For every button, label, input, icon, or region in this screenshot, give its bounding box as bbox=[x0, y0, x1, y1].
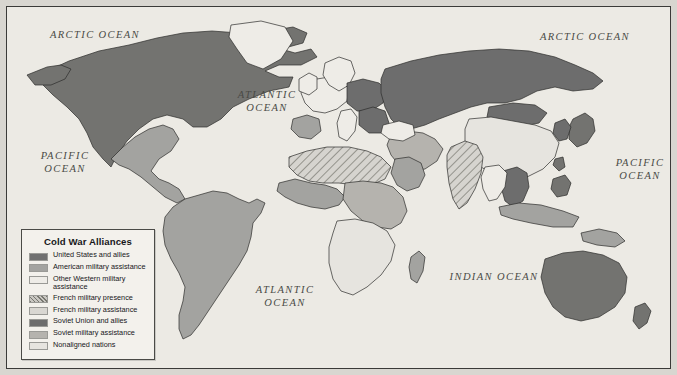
region-south-america bbox=[163, 191, 265, 339]
legend-item: Nonaligned nations bbox=[28, 341, 148, 351]
region-africa-north-hatched bbox=[289, 147, 391, 185]
region-italy bbox=[337, 109, 357, 141]
region-new-guinea bbox=[581, 229, 625, 247]
legend-label: Other Western military assistance bbox=[53, 275, 148, 292]
legend-label: American military assistance bbox=[53, 263, 145, 271]
legend-swatch-1 bbox=[29, 264, 48, 272]
legend-rows: United States and alliesAmerican militar… bbox=[28, 251, 148, 350]
region-africa-west bbox=[277, 179, 345, 209]
legend-swatch-6 bbox=[29, 331, 48, 339]
legend-label: French military presence bbox=[53, 294, 133, 302]
region-taiwan bbox=[553, 157, 565, 171]
region-india-hatched bbox=[447, 141, 483, 209]
legend-label: Soviet military assistance bbox=[53, 329, 135, 337]
legend-swatch-5 bbox=[29, 319, 48, 327]
legend-item: Soviet military assistance bbox=[28, 329, 148, 339]
legend-item: Soviet Union and allies bbox=[28, 317, 148, 327]
legend-label: Nonaligned nations bbox=[53, 341, 115, 349]
region-africa-south bbox=[329, 219, 395, 295]
legend-swatch-2 bbox=[29, 276, 48, 284]
region-arabia bbox=[391, 157, 425, 191]
region-iberia bbox=[291, 115, 321, 139]
legend-swatch-7 bbox=[29, 342, 48, 350]
region-madagascar bbox=[409, 251, 425, 283]
legend-item: French military assistance bbox=[28, 306, 148, 316]
region-australia bbox=[541, 251, 627, 321]
map-frame: ARCTIC OCEANARCTIC OCEANATLANTIC OCEANPA… bbox=[6, 6, 671, 369]
legend-item: French military presence bbox=[28, 294, 148, 304]
map-legend: Cold War Alliances United States and all… bbox=[21, 229, 155, 360]
region-malay-indonesia bbox=[499, 203, 579, 227]
legend-label: United States and allies bbox=[53, 251, 130, 259]
legend-swatch-0 bbox=[29, 253, 48, 261]
region-new-zealand bbox=[633, 303, 651, 329]
legend-item: American military assistance bbox=[28, 263, 148, 273]
legend-swatch-3 bbox=[29, 295, 48, 303]
map-screenshot: ARCTIC OCEANARCTIC OCEANATLANTIC OCEANPA… bbox=[0, 0, 677, 375]
region-japan bbox=[569, 113, 595, 147]
legend-item: Other Western military assistance bbox=[28, 275, 148, 292]
legend-swatch-4 bbox=[29, 307, 48, 315]
legend-label: French military assistance bbox=[53, 306, 137, 314]
region-philippines bbox=[551, 175, 571, 197]
legend-item: United States and allies bbox=[28, 251, 148, 261]
legend-label: Soviet Union and allies bbox=[53, 317, 127, 325]
legend-title: Cold War Alliances bbox=[28, 236, 148, 247]
